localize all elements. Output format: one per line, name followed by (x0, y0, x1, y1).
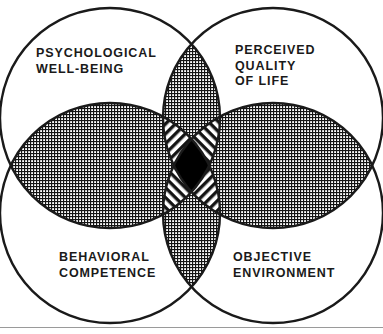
label-psychological-well-being: PSYCHOLOGICAL WELL-BEING (36, 46, 157, 77)
venn-diagram-figure: PSYCHOLOGICAL WELL-BEING PERCEIVED QUALI… (0, 0, 383, 334)
label-objective-environment: OBJECTIVE ENVIRONMENT (233, 250, 335, 281)
bottom-divider-rule (0, 327, 383, 328)
label-perceived-quality-of-life: PERCEIVED QUALITY OF LIFE (235, 43, 315, 90)
label-behavioral-competence: BEHAVIORAL COMPETENCE (59, 250, 156, 281)
